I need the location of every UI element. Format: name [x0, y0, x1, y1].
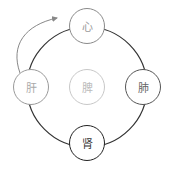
node-label: 肺 — [138, 79, 149, 95]
node-kidney: 肾 — [69, 125, 105, 161]
node-spleen: 脾 — [69, 69, 105, 105]
node-heart: 心 — [69, 8, 105, 44]
node-label: 肝 — [26, 79, 37, 95]
node-liver: 肝 — [13, 69, 49, 105]
node-label: 心 — [82, 18, 93, 34]
node-label: 肾 — [82, 135, 93, 151]
node-lung: 肺 — [125, 69, 161, 105]
liver-to-heart-arrow — [17, 18, 57, 73]
node-label: 脾 — [82, 79, 93, 95]
